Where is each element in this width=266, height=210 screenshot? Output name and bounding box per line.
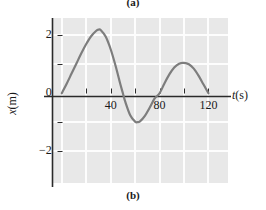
figure-container: (a) −202 4080120 x(m) t(s) (b) xyxy=(0,0,266,210)
y-axis-label: x(m) xyxy=(5,79,20,129)
y-axis-label-symbol: x xyxy=(5,110,19,115)
tick-marks xyxy=(58,36,209,152)
y-tick-label: −2 xyxy=(30,143,52,158)
x-tick-label: 40 xyxy=(96,98,126,113)
data-curve xyxy=(62,29,209,122)
x-tick-label: 80 xyxy=(145,98,175,113)
y-tick-label: 0 xyxy=(30,85,52,100)
y-tick-label: 2 xyxy=(30,27,52,42)
x-axis-label-unit: (s) xyxy=(235,88,248,102)
x-axis-label: t(s) xyxy=(232,88,248,103)
panel-b-caption: (b) xyxy=(0,189,266,201)
y-axis-label-unit: (m) xyxy=(5,92,19,109)
x-tick-label: 120 xyxy=(193,98,223,113)
